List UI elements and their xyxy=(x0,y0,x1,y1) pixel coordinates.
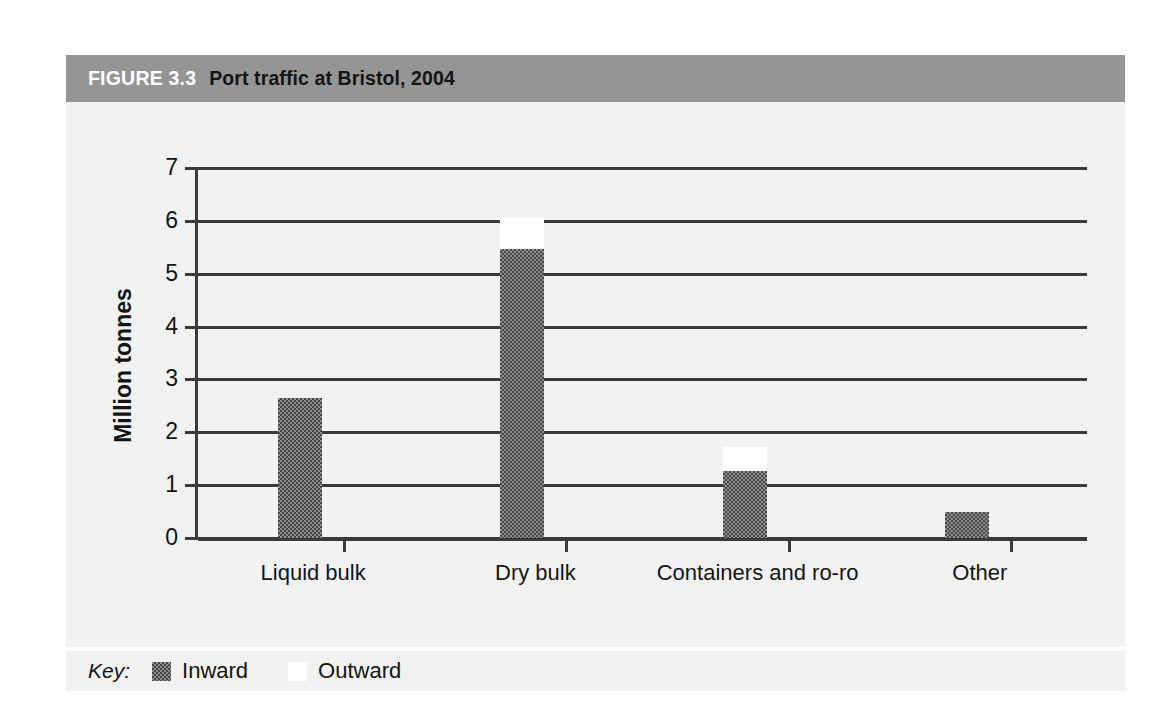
x-axis-tick xyxy=(788,538,791,552)
y-axis-tick-label: 1 xyxy=(146,473,178,496)
outward-swatch-icon xyxy=(288,662,307,681)
x-axis-tick-label: Dry bulk xyxy=(495,560,576,586)
figure-number-label: FIGURE 3.3 xyxy=(88,67,196,90)
legend-entry-outward: Outward xyxy=(288,658,401,684)
y-axis-tick xyxy=(185,484,198,487)
x-axis-tick-label: Liquid bulk xyxy=(261,560,366,586)
x-axis-tick xyxy=(565,538,568,552)
figure-title-inner: FIGURE 3.3 Port traffic at Bristol, 2004 xyxy=(88,55,455,102)
y-axis-tick xyxy=(185,378,198,381)
bar-segment-inward[interactable] xyxy=(945,512,989,538)
y-axis-tick xyxy=(185,167,198,170)
x-axis-tick xyxy=(343,538,346,552)
y-axis-title: Million tonnes xyxy=(110,256,137,476)
bar-segment-inward[interactable] xyxy=(500,249,544,538)
legend-entry-inward-label: Inward xyxy=(182,658,248,684)
legend-entry-inward: Inward xyxy=(152,658,248,684)
y-axis-tick-label: 0 xyxy=(146,526,178,549)
figure-caption: Port traffic at Bristol, 2004 xyxy=(209,67,455,90)
bar-group[interactable] xyxy=(945,168,989,538)
bar-group[interactable] xyxy=(723,168,767,538)
y-axis-tick-label: 2 xyxy=(146,420,178,443)
figure-title-band: FIGURE 3.3 Port traffic at Bristol, 2004 xyxy=(66,55,1125,102)
y-axis-line xyxy=(195,168,198,538)
y-axis-tick-label: 5 xyxy=(146,262,178,285)
y-axis-tick xyxy=(185,431,198,434)
bar-group[interactable] xyxy=(500,168,544,538)
y-axis-tick-label: 4 xyxy=(146,315,178,338)
bar-group[interactable] xyxy=(278,168,322,538)
bar-segment-outward[interactable] xyxy=(500,218,544,249)
bar-segment-inward[interactable] xyxy=(278,398,322,538)
bar-segment-outward[interactable] xyxy=(723,447,767,471)
bar-segment-inward[interactable] xyxy=(723,471,767,538)
x-axis-tick-label: Containers and ro-ro xyxy=(657,560,859,586)
inward-swatch-icon xyxy=(152,662,171,681)
chart-plot-area: 01234567 Liquid bulkDry bulkContainers a… xyxy=(198,168,1087,538)
chart-plot-region: Million tonnes 01234567 Liquid bulkDry b… xyxy=(66,102,1125,647)
figure-container: FIGURE 3.3 Port traffic at Bristol, 2004… xyxy=(66,55,1125,691)
y-axis-tick xyxy=(185,220,198,223)
x-axis-tick-label: Other xyxy=(952,560,1007,586)
y-axis-tick xyxy=(185,273,198,276)
legend-label: Key: xyxy=(88,659,130,683)
legend-entry-outward-label: Outward xyxy=(318,658,401,684)
chart-legend: Key: Inward Outward xyxy=(66,651,1125,691)
y-axis-tick-label: 3 xyxy=(146,367,178,390)
y-axis-tick xyxy=(185,537,198,540)
y-axis-tick-label: 6 xyxy=(146,209,178,232)
y-axis-tick xyxy=(185,326,198,329)
y-axis-tick-label: 7 xyxy=(146,156,178,179)
x-axis-tick xyxy=(1010,538,1013,552)
